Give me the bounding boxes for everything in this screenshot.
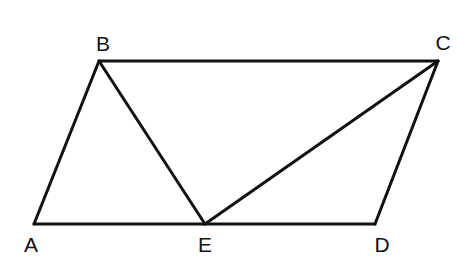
vertex-label-a: A [24,233,38,256]
vertex-label-b: B [96,32,110,55]
labels-group: A B C D E [24,31,451,256]
parallelogram-diagram: A B C D E [0,0,473,272]
segment-cd [375,61,438,224]
segment-ce [205,61,438,224]
segment-be [99,61,205,224]
segments-group [34,61,438,224]
segment-ab [34,61,99,224]
vertex-label-c: C [435,31,450,54]
vertex-label-d: D [374,233,389,256]
vertex-label-e: E [198,233,212,256]
